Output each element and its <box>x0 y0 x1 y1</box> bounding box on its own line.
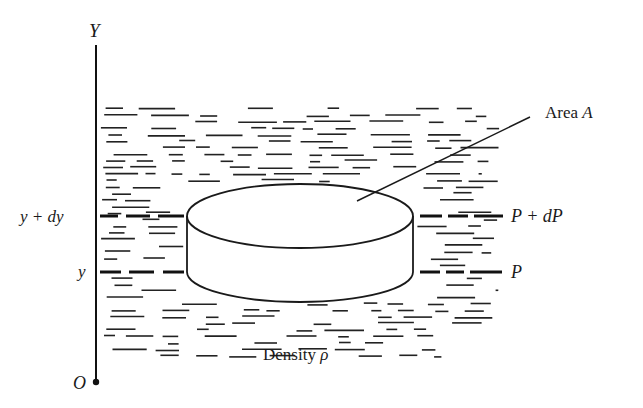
level-label-y-plus-dy: y + dy <box>20 208 64 225</box>
pressure-label-p: P <box>511 263 522 281</box>
cylinder-fluid-element <box>187 184 413 302</box>
pressure-label-p-plus-dp: P + dP <box>511 207 563 225</box>
area-leader-line <box>357 117 530 201</box>
origin-dot <box>93 379 99 385</box>
area-word: Area <box>545 103 578 122</box>
origin-label: O <box>73 374 86 392</box>
density-symbol: ρ <box>320 345 328 364</box>
density-label: Density ρ <box>263 346 328 363</box>
density-word: Density <box>263 345 316 364</box>
y-axis-label: Y <box>89 21 100 40</box>
area-symbol: A <box>582 103 592 122</box>
level-label-y: y <box>78 263 86 280</box>
area-label: Area A <box>545 104 593 121</box>
